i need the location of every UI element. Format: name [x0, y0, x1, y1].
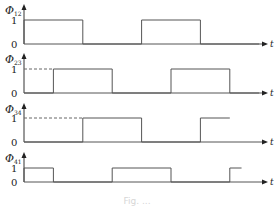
- level-label-low: 0: [11, 137, 17, 148]
- level-label-high: 1: [11, 64, 17, 75]
- waveform: [24, 118, 230, 142]
- level-label-low: 0: [11, 177, 17, 188]
- signal-phi23: Φ23t10: [5, 53, 274, 99]
- time-axis-label: t: [270, 88, 274, 98]
- waveform: [24, 168, 242, 182]
- level-label-high: 1: [11, 163, 17, 174]
- time-axis-arrow-icon: [262, 180, 268, 185]
- time-axis-label: t: [270, 177, 274, 187]
- time-axis-arrow-icon: [262, 91, 268, 96]
- y-axis-arrow-icon: [22, 4, 27, 10]
- y-axis-arrow-icon: [22, 53, 27, 59]
- time-axis-label: t: [270, 137, 274, 147]
- signal-phi12: Φ12t10: [5, 4, 274, 50]
- time-axis-arrow-icon: [262, 140, 268, 145]
- time-axis-arrow-icon: [262, 42, 268, 47]
- waveform: [24, 20, 259, 44]
- signal-phi41: Φ41t10: [5, 152, 274, 188]
- signal-phi34: Φ34t10: [5, 103, 274, 148]
- level-label-high: 1: [11, 113, 17, 124]
- level-label-low: 0: [11, 88, 17, 99]
- time-axis-label: t: [270, 39, 274, 49]
- figure-caption: Fig. ...: [0, 196, 274, 206]
- timing-diagram: Φ12t10Φ23t10Φ34t10Φ41t10: [0, 0, 274, 211]
- level-label-high: 1: [11, 15, 17, 26]
- level-label-low: 0: [11, 39, 17, 50]
- waveform: [24, 69, 259, 93]
- y-axis-arrow-icon: [22, 103, 27, 109]
- y-axis-arrow-icon: [22, 152, 27, 158]
